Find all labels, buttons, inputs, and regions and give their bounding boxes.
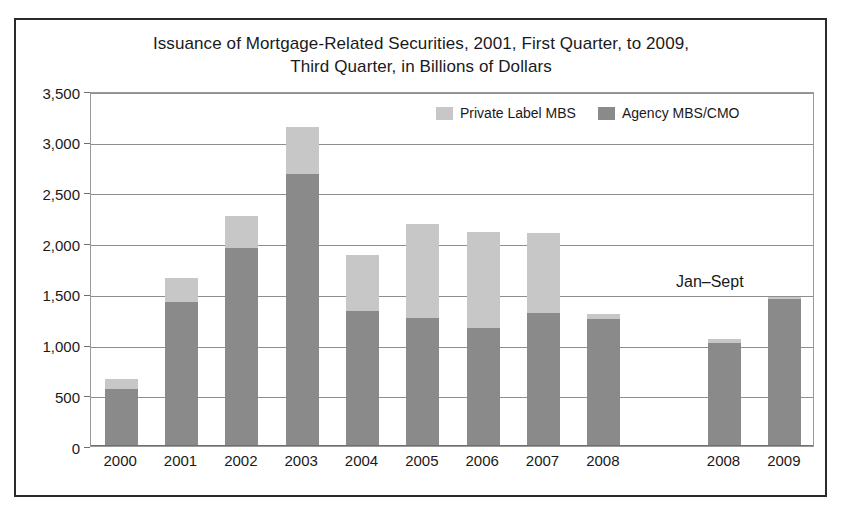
bar-2005-5 bbox=[406, 224, 439, 446]
bar-2008-10 bbox=[708, 339, 741, 447]
x-tick-label-4: 2004 bbox=[331, 452, 391, 469]
bar-segment-agency bbox=[587, 319, 620, 446]
figure-frame: Issuance of Mortgage-Related Securities,… bbox=[14, 18, 827, 497]
gridline-3000 bbox=[91, 144, 813, 145]
gridline-2000 bbox=[91, 245, 813, 246]
chart-title-line-2: Third Quarter, in Billions of Dollars bbox=[56, 55, 786, 78]
bar-2006-6 bbox=[467, 232, 500, 446]
x-tick-label-7: 2007 bbox=[512, 452, 572, 469]
y-tick-label-3500: 3,500 bbox=[16, 84, 88, 101]
y-tick-label-500: 500 bbox=[16, 388, 88, 405]
x-tick-label-1: 2001 bbox=[150, 452, 210, 469]
chart-legend: Private Label MBSAgency MBS/CMO bbox=[436, 104, 739, 122]
chart-title: Issuance of Mortgage-Related Securities,… bbox=[56, 32, 786, 78]
gridline-1000 bbox=[91, 347, 813, 348]
legend-label-1: Agency MBS/CMO bbox=[622, 105, 739, 121]
bar-segment-private-label bbox=[527, 233, 560, 313]
bar-segment-agency bbox=[286, 174, 319, 446]
bar-segment-agency bbox=[527, 313, 560, 446]
bar-segment-agency bbox=[406, 318, 439, 446]
bar-segment-private-label bbox=[467, 232, 500, 328]
bar-2003-3 bbox=[286, 127, 319, 447]
bar-segment-private-label bbox=[587, 314, 620, 319]
x-axis-tick-labels: 2000200120022003200420052006200720082008… bbox=[90, 452, 814, 482]
bar-segment-private-label bbox=[708, 339, 741, 343]
bar-segment-private-label bbox=[346, 255, 379, 311]
bar-segment-private-label bbox=[286, 127, 319, 175]
jan-sept-annotation: Jan–Sept bbox=[676, 273, 744, 291]
y-tick-label-1500: 1,500 bbox=[16, 287, 88, 304]
bar-segment-private-label bbox=[768, 297, 801, 299]
chart-title-line-1: Issuance of Mortgage-Related Securities,… bbox=[56, 32, 786, 55]
bar-2007-7 bbox=[527, 233, 560, 446]
x-tick-label-5: 2005 bbox=[392, 452, 452, 469]
x-tick-label-3: 2003 bbox=[271, 452, 331, 469]
bar-2008-8 bbox=[587, 314, 620, 446]
legend-item-0: Private Label MBS bbox=[436, 105, 576, 121]
plot-area bbox=[90, 92, 814, 447]
bar-2002-2 bbox=[225, 216, 258, 446]
bar-2004-4 bbox=[346, 255, 379, 446]
bar-segment-agency bbox=[467, 328, 500, 446]
bar-segment-agency bbox=[105, 389, 138, 446]
gridline-500 bbox=[91, 397, 813, 398]
gridline-3500 bbox=[91, 93, 813, 94]
x-axis-line bbox=[91, 445, 813, 446]
y-tick-label-2000: 2,000 bbox=[16, 236, 88, 253]
y-tick-label-1000: 1,000 bbox=[16, 338, 88, 355]
bar-2009-11 bbox=[768, 297, 801, 446]
legend-swatch-private-label bbox=[436, 107, 453, 120]
y-tick-label-3000: 3,000 bbox=[16, 135, 88, 152]
bar-segment-private-label bbox=[406, 224, 439, 318]
x-tick-label-8: 2008 bbox=[573, 452, 633, 469]
bar-segment-private-label bbox=[225, 216, 258, 248]
x-tick-label-0: 2000 bbox=[90, 452, 150, 469]
x-tick-label-2: 2002 bbox=[211, 452, 271, 469]
legend-swatch-agency bbox=[598, 107, 615, 120]
bar-segment-agency bbox=[768, 299, 801, 446]
y-tick-label-0: 0 bbox=[16, 439, 88, 456]
legend-label-0: Private Label MBS bbox=[460, 105, 576, 121]
y-tick-label-2500: 2,500 bbox=[16, 185, 88, 202]
bar-segment-agency bbox=[708, 343, 741, 446]
x-tick-label-11: 2009 bbox=[754, 452, 814, 469]
bar-segment-agency bbox=[165, 302, 198, 446]
gridline-2500 bbox=[91, 194, 813, 195]
x-tick-label-10: 2008 bbox=[693, 452, 753, 469]
bar-segment-agency bbox=[346, 311, 379, 446]
y-axis: 05001,0001,5002,0002,5003,0003,500 bbox=[16, 92, 88, 448]
bar-2000-0 bbox=[105, 379, 138, 446]
y-tick-mark-0 bbox=[84, 447, 90, 448]
bar-segment-agency bbox=[225, 248, 258, 446]
bar-segment-private-label bbox=[105, 379, 138, 389]
bar-2001-1 bbox=[165, 278, 198, 446]
bar-segment-private-label bbox=[165, 278, 198, 302]
legend-item-1: Agency MBS/CMO bbox=[598, 105, 739, 121]
gridline-1500 bbox=[91, 296, 813, 297]
x-tick-label-6: 2006 bbox=[452, 452, 512, 469]
